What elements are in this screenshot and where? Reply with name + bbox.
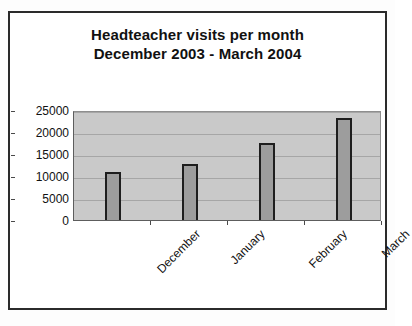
y-tick-mark	[11, 177, 15, 178]
y-tick-mark	[11, 221, 15, 222]
y-tick-label: 20000	[15, 127, 69, 139]
x-tick-label-january: January	[227, 227, 267, 267]
x-tick-label-march: March	[378, 227, 411, 260]
plot-wrapper: 0500010000150002000025000 DecemberJanuar…	[73, 111, 381, 233]
y-tick-label: 15000	[15, 149, 69, 161]
plot-area	[73, 111, 381, 221]
gridline	[74, 134, 380, 135]
y-tick-mark	[11, 199, 15, 200]
x-tick-mark	[381, 221, 382, 225]
bar-march[interactable]	[336, 118, 352, 220]
y-tick-label: 25000	[15, 105, 69, 117]
y-axis: 0500010000150002000025000	[15, 111, 69, 221]
y-tick-mark	[11, 111, 15, 112]
y-tick-mark	[11, 155, 15, 156]
gridline	[74, 156, 380, 157]
x-tick-mark	[227, 221, 228, 225]
chart-title: Headteacher visits per month December 20…	[10, 25, 385, 63]
bar-december[interactable]	[105, 172, 121, 220]
x-axis: DecemberJanuaryFebruaryMarch	[73, 227, 381, 307]
x-tick-label-february: February	[306, 227, 350, 271]
y-tick-label: 5000	[15, 193, 69, 205]
chart-title-line-1: Headteacher visits per month	[10, 25, 385, 44]
chart-frame: Headteacher visits per month December 20…	[8, 11, 387, 310]
bar-february[interactable]	[259, 143, 275, 220]
y-tick-mark	[11, 133, 15, 134]
x-tick-label-december: December	[154, 227, 203, 276]
chart-title-line-2: December 2003 - March 2004	[10, 44, 385, 63]
gridline	[74, 112, 380, 113]
x-tick-mark	[150, 221, 151, 225]
x-tick-mark	[304, 221, 305, 225]
bar-january[interactable]	[182, 164, 198, 220]
y-tick-label: 0	[15, 215, 69, 227]
y-tick-label: 10000	[15, 171, 69, 183]
